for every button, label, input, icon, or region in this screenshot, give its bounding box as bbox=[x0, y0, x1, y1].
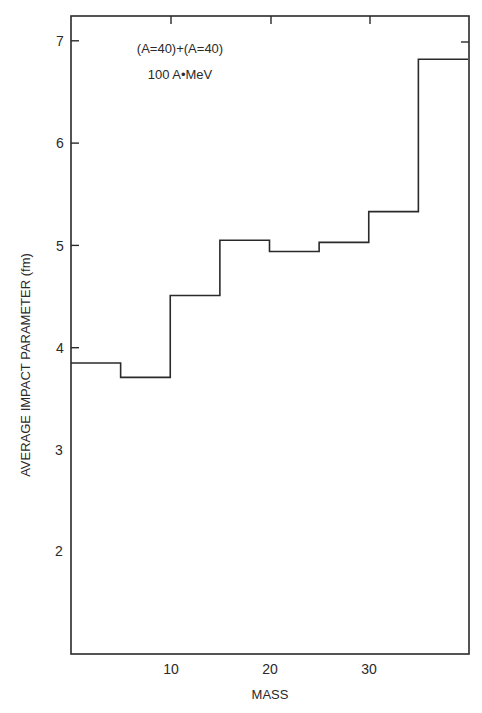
chart-canvas: 7 6 5 4 3 2 10 20 30 MASS AVERAGE IMPACT… bbox=[0, 0, 482, 713]
x-tick-label-30: 30 bbox=[361, 661, 377, 677]
plot-frame bbox=[71, 16, 469, 654]
y-tick-label-6: 6 bbox=[56, 135, 64, 151]
y-tick-label-7: 7 bbox=[56, 33, 64, 49]
top-axis-ticks bbox=[171, 16, 370, 24]
y-tick-label-3: 3 bbox=[55, 442, 63, 458]
y-tick-label-4: 4 bbox=[56, 340, 64, 356]
y-axis-label: AVERAGE IMPACT PARAMETER (fm) bbox=[18, 253, 33, 477]
annotation-energy: 100 A•MeV bbox=[148, 67, 213, 82]
x-tick-label-20: 20 bbox=[262, 661, 278, 677]
y-tick-label-5: 5 bbox=[56, 238, 64, 254]
x-axis-label: MASS bbox=[252, 687, 289, 702]
histogram-step-line bbox=[71, 59, 468, 377]
annotation-reaction: (A=40)+(A=40) bbox=[137, 41, 223, 56]
y-tick-labels: 7 6 5 4 3 2 bbox=[55, 33, 64, 559]
x-tick-label-10: 10 bbox=[163, 661, 179, 677]
y-tick-label-2: 2 bbox=[55, 543, 63, 559]
y-axis-ticks bbox=[71, 41, 79, 348]
x-tick-labels: 10 20 30 bbox=[163, 661, 377, 677]
